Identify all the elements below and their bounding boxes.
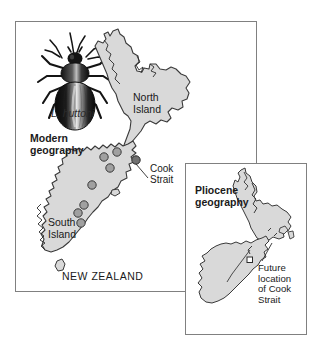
north-island-label: North Island xyxy=(133,92,161,116)
modern-geography-label: Modern geography xyxy=(30,133,84,157)
south-island-label: South Island xyxy=(48,217,76,241)
pliocene-geography-label: Pliocene geography xyxy=(195,185,249,209)
figure-root: L. huttoni xyxy=(0,0,323,350)
future-location-label: Future location of Cook Strait xyxy=(258,263,291,306)
cook-strait-label: Cook Strait xyxy=(150,163,173,185)
country-label: NEW ZEALAND xyxy=(62,271,143,283)
